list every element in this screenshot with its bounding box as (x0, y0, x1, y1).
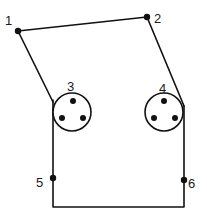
node-5-dot (50, 175, 56, 181)
pin-icon (80, 115, 86, 121)
wire-1-3 (18, 31, 53, 102)
node-5-label: 5 (36, 175, 43, 190)
node-2-label: 2 (154, 11, 161, 26)
pin-icon (70, 98, 76, 104)
wire-1-2 (18, 17, 147, 31)
node-6-dot (181, 177, 187, 183)
socket-4-label: 4 (159, 81, 166, 96)
node-1-dot (15, 28, 21, 34)
pin-icon (59, 115, 65, 121)
wiring-diagram: 3 4 1 2 5 6 (0, 0, 207, 218)
pin-icon (161, 98, 167, 104)
node-1-label: 1 (5, 13, 12, 28)
node-2-dot (144, 14, 150, 20)
pin-icon (172, 115, 178, 121)
socket-3 (53, 93, 91, 131)
pin-icon (151, 115, 157, 121)
socket-3-label: 3 (67, 79, 74, 94)
socket-4 (145, 93, 183, 131)
node-6-label: 6 (188, 176, 195, 191)
